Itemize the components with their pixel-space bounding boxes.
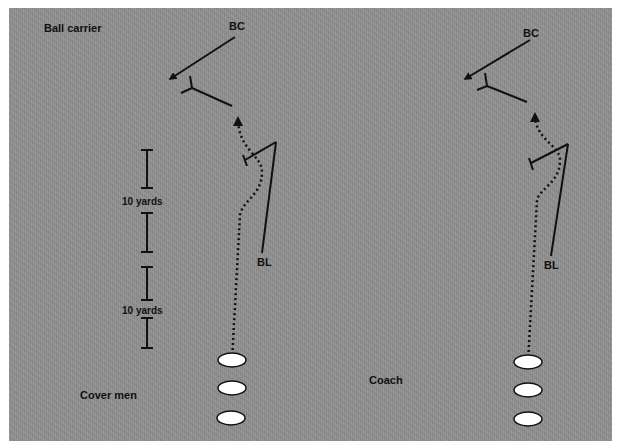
cover-man-marker [217, 411, 245, 425]
coach-group-marker [514, 383, 542, 397]
cover-man-marker [218, 381, 246, 395]
ten-yards-label-1: 10 yards [122, 196, 163, 207]
coach-group-marker [514, 355, 542, 369]
cover-man-marker [218, 353, 246, 367]
coach-group-marker [514, 412, 542, 426]
left-drill [170, 37, 276, 360]
bl-path [551, 144, 568, 256]
right-bc-label: BC [523, 27, 539, 39]
cover-men-label: Cover men [80, 389, 137, 401]
blocker-path [487, 86, 527, 102]
right-drill [465, 40, 568, 362]
ball-carrier-label: Ball carrier [44, 22, 102, 34]
bc-run-arrow [170, 37, 235, 79]
left-bl-label: BL [257, 256, 272, 268]
left-bc-label: BC [229, 20, 245, 32]
blocker-path [192, 88, 232, 106]
drill-diagram: Ball carrier Cover men Coach 10 yards 10… [0, 0, 621, 448]
right-bl-label: BL [544, 259, 559, 271]
coach-label: Coach [369, 374, 403, 386]
ten-yards-label-2: 10 yards [122, 305, 163, 316]
cover-man-path [232, 118, 262, 360]
yard-scale [141, 150, 153, 348]
bc-run-arrow [465, 40, 530, 79]
bl-path [262, 142, 276, 253]
